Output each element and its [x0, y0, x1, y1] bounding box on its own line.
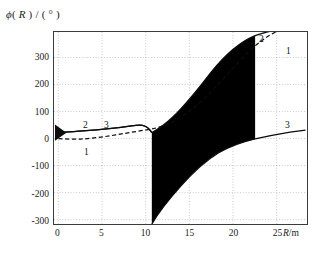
- chart-figure: ϕ( R ) / ( ° ) 300 200 100 0 -100 -200 -…: [0, 0, 322, 265]
- annotation-curve-2-right: 2: [259, 35, 264, 45]
- annotation-curve-1-right: 1: [286, 47, 291, 57]
- y-tick-label: -100: [3, 162, 49, 172]
- x-tick-label: 10: [130, 228, 160, 238]
- annotation-curve-3-left: 3: [104, 121, 109, 131]
- y-tick-label: -200: [3, 190, 49, 200]
- x-axis-ticks: 0 5 10 15 20 25: [53, 228, 309, 244]
- y-tick-label: 200: [3, 80, 49, 90]
- x-tick-label: 0: [42, 228, 72, 238]
- annotation-curve-3-right: 3: [285, 121, 290, 131]
- x-tick-label: 20: [218, 228, 248, 238]
- plot-area: [53, 31, 308, 225]
- y-tick-label: 300: [3, 53, 49, 63]
- y-axis-label: ϕ( R ) / ( ° ): [6, 8, 60, 20]
- y-axis-ticks: 300 200 100 0 -100 -200 -300: [0, 31, 49, 225]
- annotation-curve-1-left: 1: [84, 148, 89, 158]
- y-tick-label: -300: [3, 217, 49, 227]
- annotation-curve-2-left: 2: [83, 121, 88, 131]
- x-axis-label: R/m: [283, 228, 299, 238]
- y-tick-label: 0: [3, 135, 49, 145]
- shaded-band: [152, 36, 255, 224]
- y-tick-label: 100: [3, 108, 49, 118]
- x-tick-label: 5: [86, 228, 116, 238]
- x-tick-label: 15: [174, 228, 204, 238]
- plot-svg: [54, 32, 307, 224]
